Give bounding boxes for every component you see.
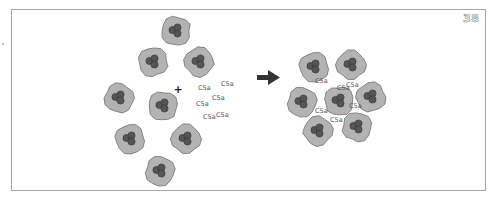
nucleus-lobe <box>355 126 362 133</box>
right-c5a-label: C5a <box>330 116 343 124</box>
nucleus-lobe <box>197 61 204 68</box>
right-arrow-icon <box>257 70 280 85</box>
right-panel-cells <box>287 50 386 147</box>
nucleus-lobe <box>161 105 168 112</box>
nucleus-lobe <box>184 138 191 145</box>
nucleus-lobe <box>300 101 307 108</box>
nucleus-lobe <box>349 64 356 71</box>
left-c5a-label: C5a <box>196 100 209 108</box>
right-c5a-label: C5a <box>315 77 328 85</box>
nucleus-lobe <box>337 100 344 107</box>
left-neutrophil-cell <box>145 157 175 187</box>
right-c5a-label: C5a <box>337 84 350 92</box>
plus-symbol: + <box>173 83 182 96</box>
left-neutrophil-cell <box>138 48 168 77</box>
left-c5a-label: C5a <box>221 80 234 88</box>
left-neutrophil-cell <box>184 47 215 78</box>
nucleus-lobe <box>151 61 158 68</box>
nucleus-lobe <box>128 138 135 145</box>
left-neutrophil-cell <box>104 83 135 113</box>
left-neutrophil-cell <box>170 124 201 153</box>
right-neutrophil-cell <box>287 88 317 118</box>
left-neutrophil-cell <box>115 125 145 155</box>
right-c5a-label: C5a <box>349 102 362 110</box>
left-c5a-label: C5a <box>212 94 225 102</box>
left-c5a-label: C5a <box>216 111 229 119</box>
nucleus-lobe <box>117 97 124 104</box>
right-neutrophil-cell <box>342 113 372 142</box>
right-c5a-label: C5a <box>315 107 328 115</box>
right-neutrophil-cell <box>303 116 334 147</box>
aggregation-diagram: C5aC5aC5aC5aC5aC5a + C5aC5aC5aC5aC5aC5a <box>0 0 496 204</box>
left-panel-c5a-labels: C5aC5aC5aC5aC5aC5a <box>196 80 234 121</box>
nucleus-lobe <box>369 96 376 103</box>
nucleus-lobe <box>312 66 319 73</box>
nucleus-lobe <box>158 170 165 177</box>
right-neutrophil-cell <box>335 50 366 79</box>
nucleus-lobe <box>316 130 323 137</box>
left-neutrophil-cell <box>149 92 177 120</box>
left-c5a-label: C5a <box>203 113 216 121</box>
left-c5a-label: C5a <box>198 84 211 92</box>
nucleus-lobe <box>174 30 181 37</box>
left-neutrophil-cell <box>162 16 190 45</box>
